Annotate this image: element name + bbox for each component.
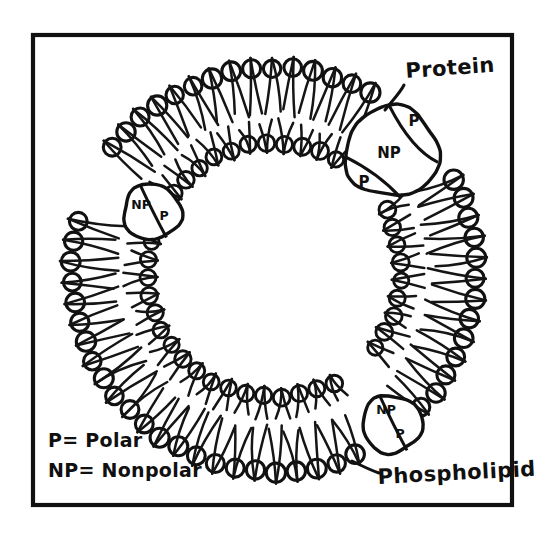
protein-callout: Protein — [385, 53, 496, 110]
protein-region-polar: P — [395, 426, 404, 441]
protein-region-polar: P — [409, 112, 420, 130]
protein-bottom-right: NPP — [363, 396, 423, 455]
phospholipid-leader-line — [352, 461, 379, 473]
diagram-canvas: PNPPNPPNPP Protein Phospholipid P= Polar… — [0, 0, 543, 533]
protein-region-nonpolar: NP — [131, 197, 151, 212]
protein-top-right: PNPP — [345, 104, 440, 198]
phospholipid-tail — [252, 428, 255, 481]
phospholipid-tail — [388, 246, 424, 247]
phospholipid-tail — [127, 293, 159, 294]
phospholipid-tail — [432, 300, 486, 302]
bilayer-figure: PNPPNPPNPP Protein Phospholipid P= Polar… — [0, 0, 543, 533]
phospholipid-tail — [127, 243, 160, 244]
phospholipid-tail — [63, 239, 115, 240]
phospholipid-tail — [293, 57, 294, 117]
phospholipid-tail — [300, 125, 301, 156]
protein-label: Protein — [405, 53, 496, 83]
protein-region-polar: P — [359, 173, 370, 191]
phospholipid-tail — [250, 58, 251, 115]
protein-region-nonpolar: NP — [377, 144, 401, 162]
phospholipid-callout: Phospholipid — [352, 457, 536, 489]
legend-nonpolar: NP= Nonpolar — [48, 459, 202, 481]
legend-polar: P= Polar — [48, 429, 143, 451]
phospholipid-tail — [388, 296, 416, 297]
protein-region-polar: P — [159, 208, 168, 223]
protein-region-nonpolar: NP — [376, 402, 396, 417]
